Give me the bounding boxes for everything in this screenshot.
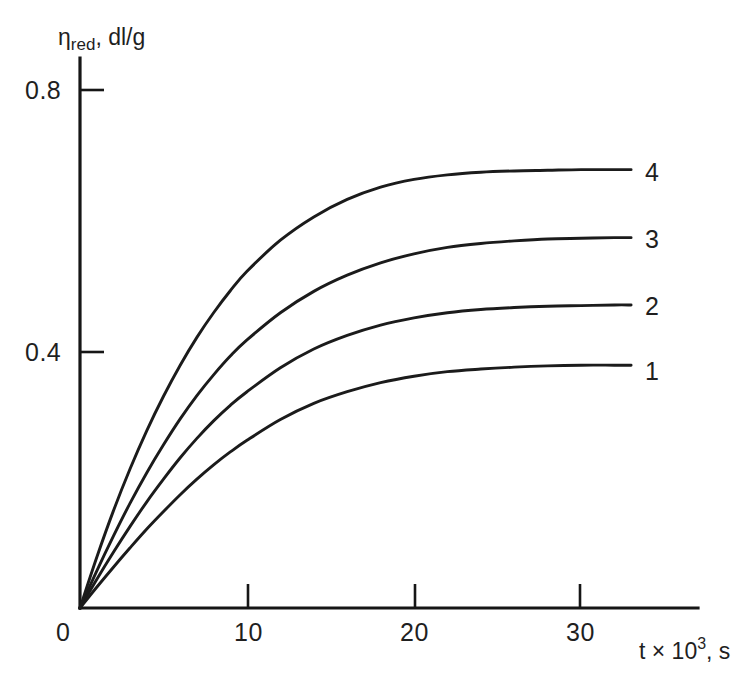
- curve-2: [80, 305, 631, 608]
- x-tick-label-30: 30: [566, 618, 595, 647]
- curve-1: [80, 365, 631, 608]
- curve-label-2: 2: [645, 292, 659, 321]
- x-tick-label-10: 10: [234, 618, 263, 647]
- y-axis-title: ηred, dl/g: [58, 24, 145, 51]
- chart-figure: ηred, dl/g 0.8 0.4 0 10 20 30 t × 103, s…: [0, 0, 752, 683]
- data-curves: [80, 170, 631, 608]
- origin-label: 0: [56, 618, 70, 647]
- curve-label-3: 3: [645, 225, 659, 254]
- plot-area: [0, 0, 752, 683]
- x-axis-ticks: [248, 584, 580, 608]
- y-axis-title-units: , dl/g: [95, 24, 145, 50]
- curve-label-4: 4: [645, 158, 659, 187]
- x-axis-title-main: t × 10: [639, 638, 697, 664]
- axes-group: [80, 58, 698, 608]
- curve-3: [80, 238, 631, 608]
- y-tick-label-0.4: 0.4: [25, 338, 61, 367]
- y-axis-title-symbol: η: [58, 24, 71, 50]
- x-axis-title: t × 103, s: [639, 638, 730, 665]
- x-axis-title-exponent: 3: [697, 635, 706, 652]
- x-tick-label-20: 20: [400, 618, 429, 647]
- curve-label-1: 1: [645, 357, 659, 386]
- x-axis-title-units: , s: [706, 638, 730, 664]
- y-tick-label-0.8: 0.8: [25, 76, 61, 105]
- y-axis-ticks: [80, 90, 104, 352]
- y-axis-title-subscript: red: [71, 35, 96, 54]
